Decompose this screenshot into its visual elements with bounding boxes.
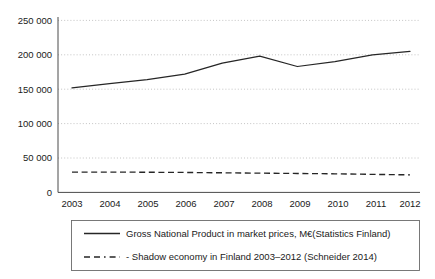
y-axis-tick-labels: 250 000 200 000 150 000 100 000 50 000 0 — [18, 15, 52, 198]
series-line-gross-national-product — [72, 51, 410, 87]
series-line-shadow-economy — [72, 172, 410, 175]
x-tick-label-2006: 2006 — [175, 198, 196, 209]
x-tick-label-2007: 2007 — [213, 198, 234, 209]
legend: Gross National Product in market prices,… — [72, 221, 420, 271]
y-tick-label-250000: 250 000 — [18, 15, 52, 26]
data-series — [72, 51, 410, 175]
axis-spines — [58, 17, 420, 192]
y-tick-label-100000: 100 000 — [18, 118, 52, 129]
y-tick-label-0: 0 — [47, 187, 52, 198]
y-tick-label-50000: 50 000 — [23, 152, 52, 163]
chart-figure: 250 000 200 000 150 000 100 000 50 000 0… — [0, 0, 435, 279]
x-tick-label-2008: 2008 — [251, 198, 272, 209]
legend-label-shadow-economy: - Shadow economy in Finland 2003–2012 (S… — [126, 251, 377, 262]
legend-label-gross-national-product: Gross National Product in market prices,… — [126, 228, 391, 239]
x-tick-label-2003: 2003 — [61, 198, 82, 209]
x-tick-label-2004: 2004 — [99, 198, 120, 209]
y-tick-label-150000: 150 000 — [18, 84, 52, 95]
x-tick-label-2005: 2005 — [137, 198, 158, 209]
x-tick-label-2012: 2012 — [399, 198, 420, 209]
line-chart: 250 000 200 000 150 000 100 000 50 000 0… — [0, 0, 435, 279]
x-axis-tick-labels: 2003 2004 2005 2006 2007 2008 2009 2010 … — [61, 198, 420, 209]
y-tick-label-200000: 200 000 — [18, 49, 52, 60]
x-tick-label-2009: 2009 — [289, 198, 310, 209]
x-tick-label-2010: 2010 — [327, 198, 348, 209]
x-tick-label-2011: 2011 — [366, 198, 386, 209]
gridlines — [58, 20, 420, 158]
